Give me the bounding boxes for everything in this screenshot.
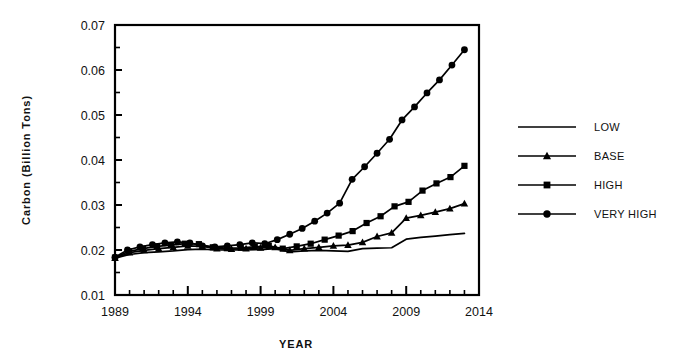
data-point-circle-marker [424,90,431,97]
y-tick-label: 0.03 [81,199,105,213]
y-tick-label: 0.01 [81,289,105,303]
data-point-circle-marker [224,243,231,250]
y-tick-label: 0.04 [81,154,105,168]
y-tick-label: 0.02 [81,244,105,258]
data-point-circle-marker [211,243,218,250]
data-point-square-marker [308,241,314,247]
data-point-square-marker [377,213,383,219]
data-point-circle-marker [361,163,368,170]
data-point-square-marker [447,174,453,180]
data-point-circle-marker [236,241,243,248]
data-point-circle-marker [261,240,268,247]
data-point-circle-marker [436,77,443,84]
data-point-square-marker [280,246,286,252]
data-point-circle-marker [324,210,331,217]
data-point-square-marker [405,199,411,205]
data-point-square-marker [350,228,356,234]
legend-label: BASE [594,150,625,162]
data-point-circle-marker [349,176,356,183]
x-tick-label: 2014 [465,305,493,319]
x-axis-title: YEAR [279,338,313,350]
data-point-square-marker [433,180,439,186]
data-point-square-marker [363,220,369,226]
data-point-square-marker [322,237,328,243]
data-point-circle-marker [174,239,181,246]
data-point-circle-marker [461,46,468,53]
data-point-circle-marker [186,239,193,246]
data-point-circle-marker [274,236,281,243]
data-point-square-marker [419,188,425,194]
line-chart-figure: 0.010.020.030.040.050.060.07 19891994199… [0,0,674,364]
data-point-square-marker [336,233,342,239]
data-point-circle-marker [199,243,206,250]
data-point-circle-marker [162,239,169,246]
data-point-square-marker [461,163,467,169]
data-point-circle-marker [336,200,343,207]
data-point-circle-marker [386,136,393,143]
x-tick-label: 1999 [247,305,275,319]
data-point-circle-marker [137,243,144,250]
data-point-circle-marker [449,62,456,69]
x-tick-label: 1989 [101,305,129,319]
data-point-circle-marker [299,225,306,232]
data-point-circle-marker [411,104,418,111]
x-tick-label: 2004 [319,305,347,319]
data-point-circle-marker [124,247,131,254]
y-tick-label: 0.05 [81,109,105,123]
x-tick-label: 2009 [392,305,420,319]
data-point-circle-marker [399,117,406,124]
data-point-circle-marker [543,210,550,217]
data-point-circle-marker [112,254,119,261]
x-tick-label: 1994 [174,305,202,319]
legend-label: LOW [594,121,620,133]
y-tick-label: 0.06 [81,64,105,78]
data-point-square-marker [391,203,397,209]
data-point-circle-marker [249,239,256,246]
data-point-circle-marker [374,150,381,157]
data-point-square-marker [294,243,300,249]
y-axis-title: Carbon (Billion Tons) [20,95,32,225]
y-tick-label: 0.07 [81,19,105,33]
data-point-circle-marker [149,241,156,248]
legend-label: HIGH [594,179,623,191]
data-point-circle-marker [311,218,318,225]
data-point-square-marker [544,182,551,189]
data-point-circle-marker [286,231,293,238]
legend-label: VERY HIGH [594,208,657,220]
